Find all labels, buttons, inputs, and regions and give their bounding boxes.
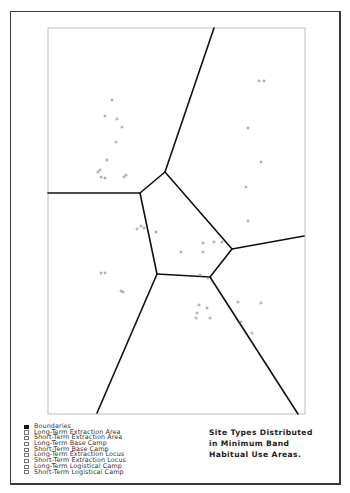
boundary-line [97, 274, 157, 413]
map-title-line: Site Types Distributed [209, 427, 313, 438]
legend-swatch-icon [24, 430, 29, 434]
site-marker-icon [100, 272, 102, 274]
site-marker-icon [121, 126, 123, 128]
site-marker-icon [120, 290, 122, 292]
site-marker-icon [198, 304, 200, 306]
site-marker-icon [116, 118, 118, 120]
legend-swatch-icon [24, 442, 29, 446]
boundary-line [140, 193, 157, 274]
site-marker-icon [240, 321, 242, 323]
site-marker-icon [260, 161, 262, 163]
site-marker-icon [213, 241, 215, 243]
map-title-line: Habitual Use Areas. [209, 449, 313, 460]
site-marker-icon [202, 242, 204, 244]
site-marker-icon [207, 277, 209, 279]
site-marker-icon [263, 80, 265, 82]
site-marker-icon [100, 176, 102, 178]
site-marker-icon [97, 171, 99, 173]
site-marker-icon [99, 169, 101, 171]
site-marker-icon [209, 317, 211, 319]
legend-swatch-icon [24, 425, 29, 429]
site-marker-icon [247, 127, 249, 129]
boundary-line [157, 274, 210, 277]
boundary-line [140, 172, 165, 193]
site-marker-icon [251, 332, 253, 334]
site-marker-icon [237, 301, 239, 303]
map-inner-frame [48, 28, 305, 414]
legend-swatch-icon [24, 459, 29, 463]
site-marker-icon [206, 307, 208, 309]
site-marker-icon [221, 241, 223, 243]
legend-swatch-icon [24, 448, 29, 452]
site-marker-icon [180, 251, 182, 253]
site-marker-icon [258, 80, 260, 82]
boundary-line [210, 277, 298, 414]
boundary-line [165, 28, 214, 172]
site-marker-icon [122, 291, 124, 293]
site-marker-icon [155, 231, 157, 233]
site-marker-icon [111, 99, 113, 101]
site-marker-icon [104, 115, 106, 117]
map-title: Site Types Distributed in Minimum Band H… [209, 427, 313, 460]
site-marker-icon [195, 317, 197, 319]
legend-swatch-icon [24, 453, 29, 457]
site-markers [97, 80, 265, 334]
site-marker-icon [245, 186, 247, 188]
site-marker-icon [136, 228, 138, 230]
boundary-line [165, 172, 232, 249]
boundary-line [210, 249, 232, 277]
legend-swatch-icon [24, 436, 29, 440]
boundary-line [232, 236, 304, 249]
site-marker-icon [140, 225, 142, 227]
site-marker-icon [247, 220, 249, 222]
site-marker-icon [106, 159, 108, 161]
site-marker-icon [123, 176, 125, 178]
site-marker-icon [260, 302, 262, 304]
legend-swatch-icon [24, 465, 29, 469]
map-title-line: in Minimum Band [209, 438, 313, 449]
legend-swatch-icon [24, 470, 29, 474]
site-marker-icon [196, 312, 198, 314]
site-marker-icon [199, 274, 201, 276]
site-marker-icon [202, 251, 204, 253]
legend-label: Short-Term Logistical Camp [34, 470, 124, 476]
legend-item-short-term-logistical-camp: Short-Term Logistical Camp [24, 470, 126, 476]
site-marker-icon [104, 272, 106, 274]
boundary-lines [48, 28, 304, 414]
habitual-use-area-map [0, 0, 350, 493]
site-marker-icon [143, 227, 145, 229]
legend: Boundaries Long-Term Extraction Area Sho… [24, 424, 126, 475]
site-marker-icon [115, 141, 117, 143]
site-marker-icon [125, 174, 127, 176]
site-marker-icon [104, 177, 106, 179]
